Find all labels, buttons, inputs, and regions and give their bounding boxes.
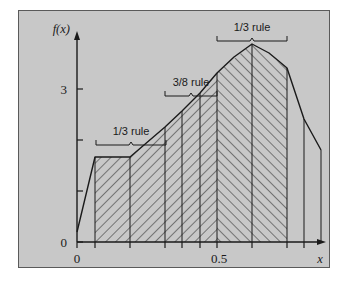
annotation-bracket-right <box>217 36 287 41</box>
annotation-right-third-rule: 1/3 rule <box>217 21 287 41</box>
x-tick-label-05: 0.5 <box>211 251 227 266</box>
x-tick-label-0: 0 <box>74 251 81 266</box>
x-axis: 0 0.5 x <box>74 239 326 266</box>
annotation-label-right-third-rule: 1/3 rule <box>234 21 271 33</box>
shaded-region <box>95 44 287 242</box>
y-tick-label-3: 3 <box>61 82 68 97</box>
plot-canvas: 0 3 f(x) <box>19 11 329 267</box>
figure-frame: 0 3 f(x) <box>18 10 330 268</box>
figure-root: 0 3 f(x) <box>0 0 346 281</box>
panel-three-eighths-rule <box>165 73 217 242</box>
y-axis: 0 3 f(x) <box>53 22 83 250</box>
y-axis-arrow <box>74 31 80 40</box>
y-tick-label-0: 0 <box>61 235 68 250</box>
annotation-label-left-third-rule: 1/3 rule <box>113 125 150 137</box>
y-axis-title: f(x) <box>53 22 70 36</box>
x-axis-title: x <box>316 252 323 266</box>
annotation-label-three-eighths-rule: 3/8 rule <box>173 76 210 88</box>
